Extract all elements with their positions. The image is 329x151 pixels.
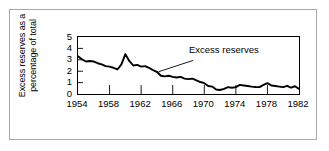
y-tick-label: 5 xyxy=(56,32,72,42)
y-tick-label: 3 xyxy=(56,54,72,64)
figure: Excess reserves as a percentage of total… xyxy=(0,0,329,151)
x-tick-label: 1958 xyxy=(94,99,124,109)
x-tick-label: 1974 xyxy=(220,99,250,109)
x-tick-label: 1966 xyxy=(157,99,187,109)
y-axis-tick-marks xyxy=(78,48,83,82)
y-tick-label: 4 xyxy=(56,43,72,53)
x-tick-label: 1954 xyxy=(62,99,92,109)
y-axis-title-line-1: Excess reserves as a xyxy=(17,1,28,111)
x-tick-label: 1970 xyxy=(188,99,218,109)
y-tick-label: 1 xyxy=(56,77,72,87)
x-tick-label: 1978 xyxy=(251,99,281,109)
y-axis-title-line-2: percentage of total xyxy=(27,1,38,111)
x-tick-label: 1982 xyxy=(283,99,313,109)
x-tick-label: 1962 xyxy=(125,99,155,109)
y-tick-label: 0 xyxy=(56,89,72,99)
y-tick-label: 2 xyxy=(56,66,72,76)
y-axis-title: Excess reserves as a percentage of total xyxy=(17,1,38,111)
line-series-excess-reserves xyxy=(78,54,299,90)
annotation-leader-line xyxy=(159,60,194,71)
series-annotation-label: Excess reserves xyxy=(189,45,259,55)
